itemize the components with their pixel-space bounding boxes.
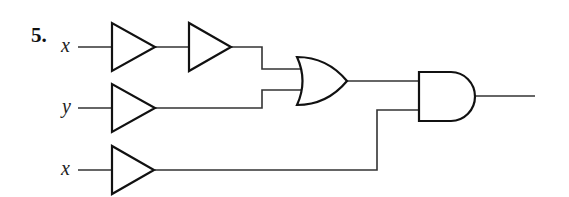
- logic-circuit-diagram: 5. x y x: [0, 0, 569, 197]
- or-gate: [297, 57, 347, 105]
- circuit-svg: 5. x y x: [0, 0, 569, 197]
- wire-buf4-to-and: [155, 110, 419, 170]
- buffer-gate-3: [112, 84, 155, 132]
- problem-number: 5.: [31, 23, 47, 47]
- wire-buf3-to-or: [155, 90, 301, 108]
- buffer-gate-4: [112, 146, 154, 194]
- input-label-x-1: x: [60, 34, 70, 56]
- and-gate: [419, 72, 475, 121]
- wire-buf2-to-or: [231, 47, 301, 69]
- input-label-x-2: x: [60, 157, 70, 179]
- input-label-y: y: [60, 95, 71, 118]
- buffer-gate-2: [189, 23, 231, 71]
- buffer-gate-1: [112, 23, 155, 71]
